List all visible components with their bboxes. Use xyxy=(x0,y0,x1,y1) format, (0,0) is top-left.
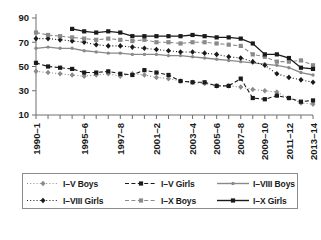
data-point-marker xyxy=(34,36,39,42)
legend-grid: I–V BoysI–V GirlsI–VIII BoysI–VIII Girls… xyxy=(23,174,297,209)
data-point-marker xyxy=(311,63,315,67)
data-point-marker xyxy=(46,45,49,48)
data-point-marker xyxy=(41,197,46,203)
data-point-marker xyxy=(142,68,146,72)
data-point-marker xyxy=(143,53,146,56)
data-point-marker xyxy=(191,55,194,58)
data-point-marker xyxy=(275,94,279,98)
data-point-marker xyxy=(154,40,158,44)
data-point-marker xyxy=(70,67,74,71)
data-point-marker xyxy=(34,69,39,75)
data-point-marker xyxy=(154,34,158,38)
data-point-marker xyxy=(311,98,315,102)
data-point-marker xyxy=(130,39,134,43)
data-point-marker xyxy=(142,46,147,52)
data-point-marker xyxy=(34,61,38,65)
legend-swatch xyxy=(124,192,158,210)
data-point-marker xyxy=(94,70,98,74)
data-point-marker xyxy=(34,30,38,34)
data-point-marker xyxy=(166,48,171,54)
data-point-marker xyxy=(203,40,207,44)
x-tick-label: 2005–6 xyxy=(211,123,222,155)
data-point-marker xyxy=(118,43,123,49)
legend-item-i-v-girls[interactable]: I–V Girls xyxy=(124,176,216,192)
data-point-marker xyxy=(107,51,110,54)
legend-label: I–VIII Boys xyxy=(253,179,295,189)
data-point-marker xyxy=(299,100,303,104)
data-point-marker xyxy=(250,87,255,93)
legend-item-i-v-boys[interactable]: I–V Boys xyxy=(26,176,124,192)
data-point-marker xyxy=(311,73,314,76)
data-point-marker xyxy=(70,47,73,50)
legend-swatch xyxy=(124,175,158,193)
data-point-marker xyxy=(178,49,183,55)
x-tick-label: 2003–4 xyxy=(187,122,198,154)
data-point-marker xyxy=(130,73,134,77)
data-point-marker xyxy=(139,198,143,202)
data-point-marker xyxy=(227,43,231,47)
data-point-marker xyxy=(46,64,50,68)
data-point-marker xyxy=(58,71,63,77)
data-point-marker xyxy=(202,50,207,56)
data-point-marker xyxy=(142,72,147,78)
data-point-marker xyxy=(119,51,122,54)
data-point-marker xyxy=(190,33,194,37)
data-point-marker xyxy=(227,35,231,39)
data-point-marker xyxy=(82,29,86,33)
data-point-marker xyxy=(142,38,146,42)
data-point-marker xyxy=(311,79,316,85)
data-point-marker xyxy=(215,84,219,88)
data-point-marker xyxy=(118,38,122,42)
data-point-marker xyxy=(82,49,85,52)
data-point-marker xyxy=(154,47,159,53)
legend-item-i-x-boys[interactable]: I–X Boys xyxy=(124,193,216,209)
y-tick-label: 10 xyxy=(18,109,29,120)
series-line xyxy=(36,71,313,104)
legend-swatch xyxy=(26,175,60,193)
data-point-marker xyxy=(239,77,243,81)
data-point-marker xyxy=(311,67,315,71)
data-point-marker xyxy=(154,70,158,74)
data-point-marker xyxy=(203,80,207,84)
data-point-marker xyxy=(130,44,135,50)
data-point-marker xyxy=(95,50,98,53)
series-i-v-boys xyxy=(34,69,316,107)
data-point-marker xyxy=(299,58,303,62)
data-point-marker xyxy=(215,35,219,39)
data-point-marker xyxy=(178,79,182,83)
data-point-marker xyxy=(298,77,303,83)
data-point-marker xyxy=(94,30,98,34)
data-point-marker xyxy=(215,58,218,61)
data-point-marker xyxy=(82,37,86,41)
y-tick-label: 50 xyxy=(18,61,29,72)
data-point-marker xyxy=(166,34,170,38)
legend-label: I–VIII Girls xyxy=(63,196,103,206)
data-point-marker xyxy=(155,53,158,56)
data-point-marker xyxy=(190,80,194,84)
data-point-marker xyxy=(130,34,134,38)
data-point-marker xyxy=(214,52,219,58)
data-point-marker xyxy=(238,84,243,90)
data-point-marker xyxy=(82,70,86,74)
data-point-marker xyxy=(106,69,110,73)
data-point-marker xyxy=(154,75,159,81)
legend-swatch xyxy=(26,192,60,210)
x-tick-label: 2001–2 xyxy=(151,123,162,155)
series-line xyxy=(36,47,313,75)
data-point-marker xyxy=(287,96,291,100)
series-i-x-girls xyxy=(70,27,315,71)
data-point-marker xyxy=(299,71,302,74)
data-point-marker xyxy=(251,52,255,56)
legend-item-i-x-girls[interactable]: I–X Girls xyxy=(216,193,302,209)
chart-legend: I–V BoysI–V GirlsI–VIII BoysI–VIII Girls… xyxy=(22,173,298,209)
data-point-marker xyxy=(227,84,231,88)
data-point-marker xyxy=(274,71,279,77)
data-point-marker xyxy=(46,70,51,76)
data-point-marker xyxy=(287,56,291,60)
data-point-marker xyxy=(263,52,267,56)
legend-item-i-viii-boys[interactable]: I–VIII Boys xyxy=(216,176,302,192)
data-point-marker xyxy=(106,37,110,41)
data-point-marker xyxy=(275,64,278,67)
legend-item-i-viii-girls[interactable]: I–VIII Girls xyxy=(26,193,124,209)
data-point-marker xyxy=(46,33,50,37)
